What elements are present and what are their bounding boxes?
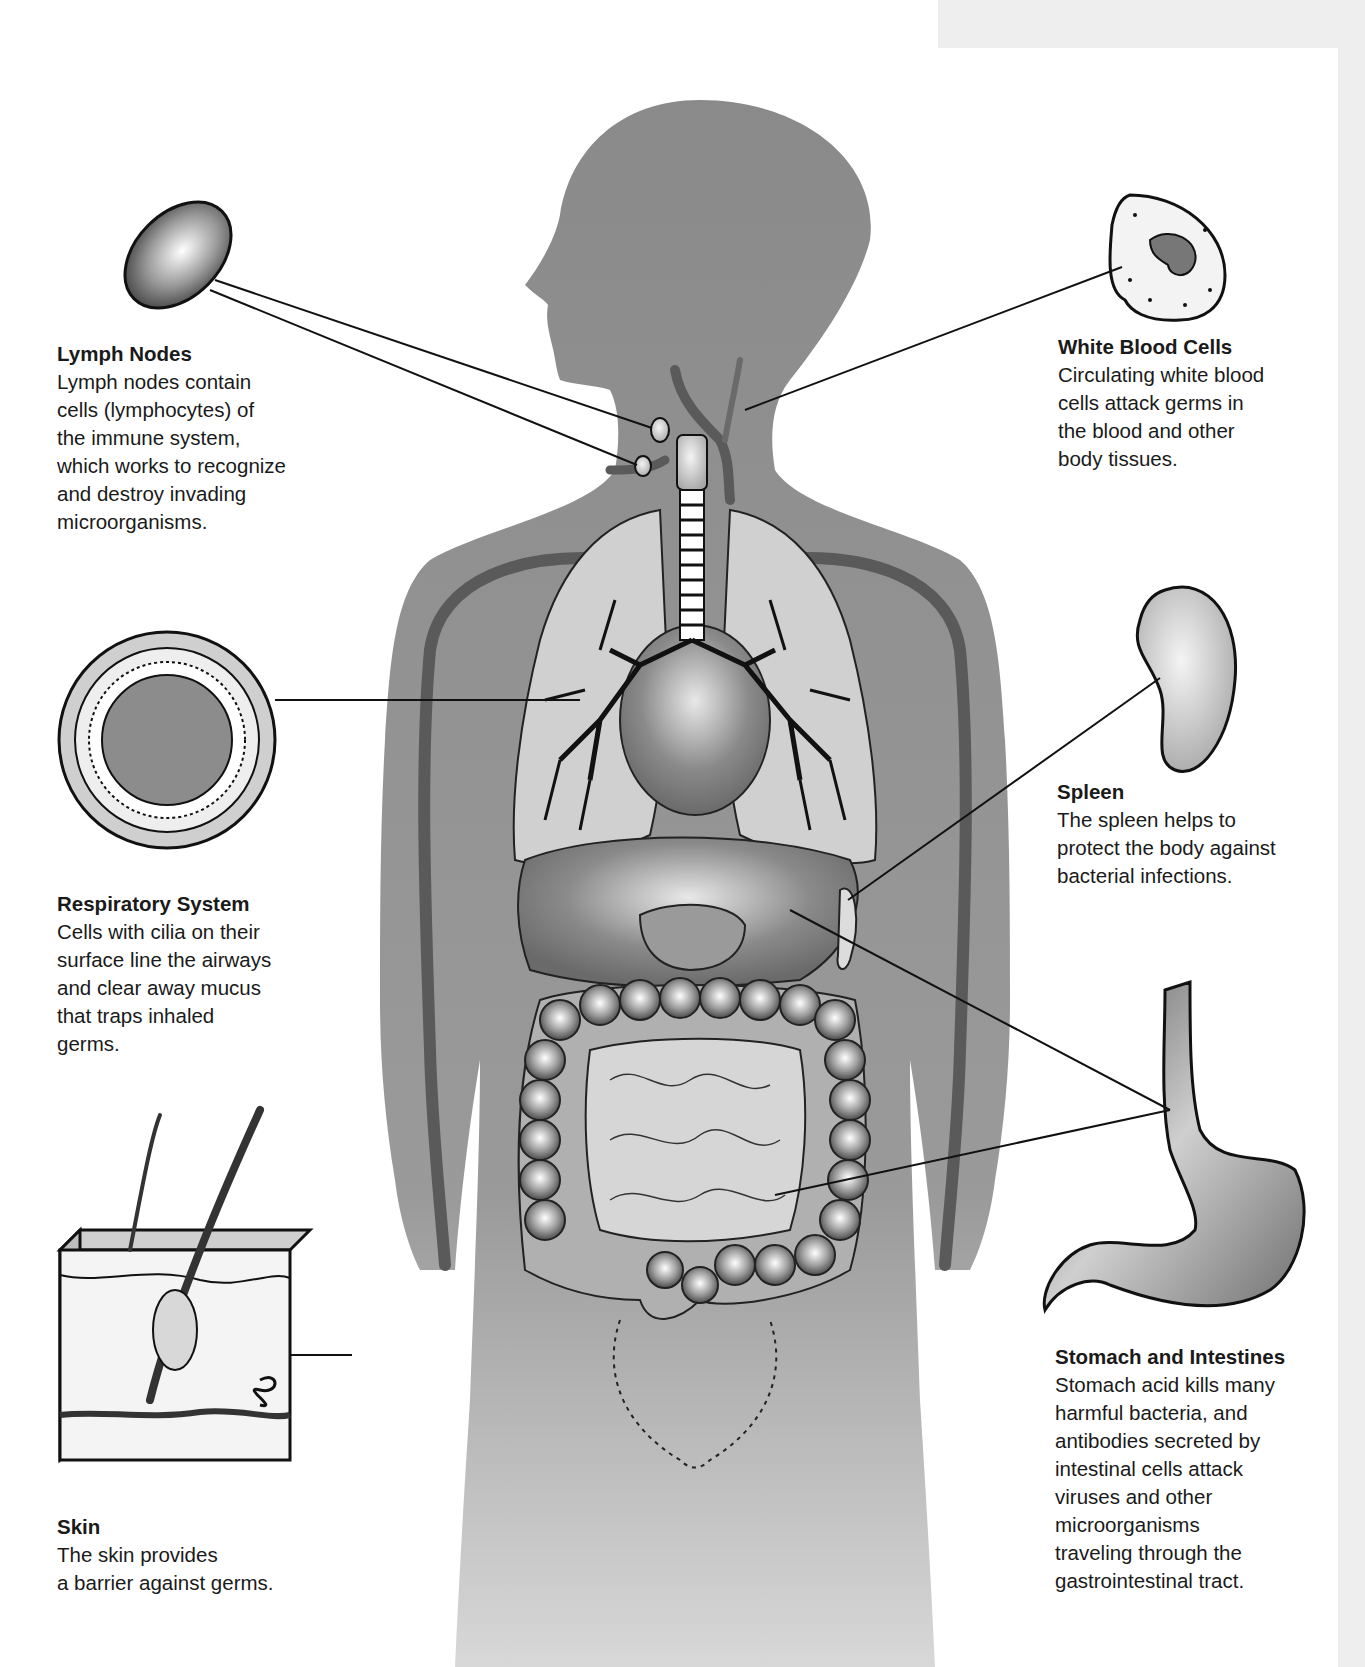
callout-description: Lymph nodes contain cells (lymphocytes) …: [57, 368, 357, 536]
callout-description: Circulating white blood cells attack ger…: [1058, 361, 1338, 473]
callout-title: Skin: [57, 1513, 357, 1541]
callout-title: Spleen: [1057, 778, 1337, 806]
callout-title: Respiratory System: [57, 890, 357, 918]
callout-title: Stomach and Intestines: [1055, 1343, 1345, 1371]
callout-title: White Blood Cells: [1058, 333, 1338, 361]
callout-description: Cells with cilia on their surface line t…: [57, 918, 357, 1058]
callout-title: Lymph Nodes: [57, 340, 357, 368]
heart: [620, 625, 770, 815]
callout-white-blood-cells: White Blood Cells Circulating white bloo…: [1058, 333, 1338, 473]
callout-description: The skin provides a barrier against germ…: [57, 1541, 357, 1597]
callout-stomach-intestines: Stomach and Intestines Stomach acid kill…: [1055, 1343, 1345, 1595]
callout-description: Stomach acid kills many harmful bacteria…: [1055, 1371, 1345, 1595]
callout-respiratory-system: Respiratory System Cells with cilia on t…: [57, 890, 357, 1058]
callout-skin: Skin The skin provides a barrier against…: [57, 1513, 357, 1597]
abdominal-organs: [518, 838, 858, 987]
callout-description: The spleen helps to protect the body aga…: [1057, 806, 1337, 890]
skin-cross-section-illustration: [60, 1110, 352, 1460]
callout-lymph-nodes: Lymph Nodes Lymph nodes contain cells (l…: [57, 340, 357, 536]
callout-spleen: Spleen The spleen helps to protect the b…: [1057, 778, 1337, 890]
intestines: [519, 978, 870, 1319]
